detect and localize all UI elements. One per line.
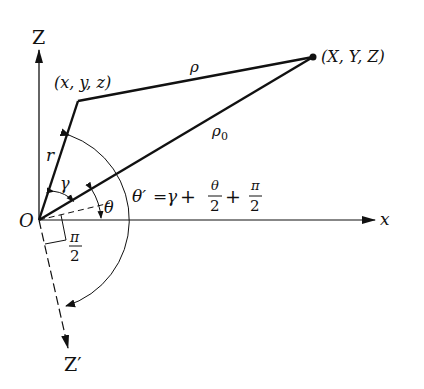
theta-prime-equation: θ′ = γ + θ 2 + π 2: [132, 178, 262, 215]
rho0-label: ρ 0: [211, 122, 228, 143]
eq-plus-1: +: [180, 185, 196, 207]
eq-pi-denominator: 2: [250, 197, 260, 215]
theta-label: θ: [104, 198, 114, 217]
eq-theta-prime: θ′: [132, 186, 146, 206]
source-point-label: (x, y, z): [54, 73, 111, 92]
eq-theta-denominator: 2: [210, 197, 220, 215]
right-angle-label: π 2: [69, 229, 82, 265]
diagram-canvas: Z x Z′ O (x, y, z) (X, Y, Z) r ρ ρ 0 γ θ…: [0, 0, 424, 389]
rho0-subscript: 0: [221, 130, 228, 143]
gamma-label: γ: [60, 174, 70, 193]
eq-theta-numerator: θ: [211, 178, 219, 193]
eq-gamma: γ: [167, 186, 178, 206]
field-point-label: (X, Y, Z): [321, 47, 385, 66]
rho0-symbol: ρ: [211, 122, 221, 140]
right-angle-marker: [45, 215, 66, 244]
right-angle-denominator: 2: [70, 247, 80, 265]
rho-label: ρ: [189, 58, 199, 76]
eq-pi-numerator: π: [250, 178, 260, 193]
theta-prime-arc: [66, 135, 129, 306]
field-point-dot: [310, 54, 317, 61]
z-axis-label: Z: [32, 26, 45, 48]
right-angle-numerator: π: [69, 229, 80, 245]
z-prime-axis: [39, 220, 68, 348]
origin-label: O: [19, 210, 34, 231]
eq-plus-2: +: [225, 185, 241, 207]
segment-r: [39, 101, 78, 220]
z-prime-axis-label: Z′: [64, 353, 82, 375]
x-axis-label: x: [380, 209, 390, 229]
r-label: r: [46, 145, 55, 165]
eq-equals: =: [153, 186, 167, 206]
theta-arc: [92, 189, 101, 218]
